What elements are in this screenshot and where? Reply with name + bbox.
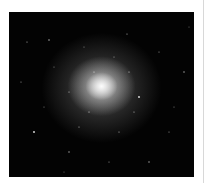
right-divider-line (203, 0, 204, 183)
star-field (9, 12, 194, 177)
star-cluster-photo (9, 12, 194, 177)
